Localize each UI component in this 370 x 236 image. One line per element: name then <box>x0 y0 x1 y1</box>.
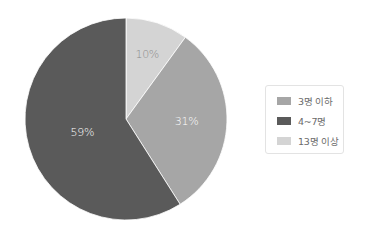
legend-item-4-to-7[interactable]: 4~7명 <box>277 115 343 127</box>
legend-label: 4~7명 <box>298 114 326 128</box>
pie-data-label: 10% <box>135 48 159 61</box>
legend-swatch <box>277 117 291 125</box>
legend-item-3-or-fewer[interactable]: 3명 이하 <box>277 95 343 107</box>
legend-swatch <box>277 137 291 145</box>
pie-data-label: 59% <box>71 126 95 139</box>
pie-data-label: 31% <box>175 115 199 128</box>
legend-swatch <box>277 97 291 105</box>
legend-label: 13명 이상 <box>298 134 339 148</box>
legend-label: 3명 이하 <box>298 94 333 108</box>
legend-item-13-or-more[interactable]: 13명 이상 <box>277 135 343 147</box>
chart-legend: 3명 이하 4~7명 13명 이상 <box>265 85 344 154</box>
